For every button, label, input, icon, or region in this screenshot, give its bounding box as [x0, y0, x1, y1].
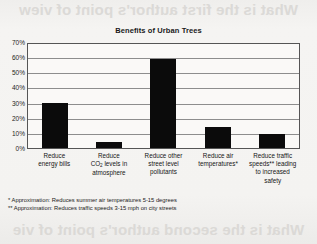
x-axis-label-line: Reduce other: [137, 152, 190, 160]
x-axis-label-line: street level: [137, 160, 190, 168]
footnote: * Approximation: Reduces summer air temp…: [8, 196, 308, 204]
plot-area: [27, 43, 300, 149]
x-axis-label: ReduceCO2 levels inatmosphere: [82, 152, 137, 185]
x-axis-labels: Reduceenergy billsReduceCO2 levels inatm…: [27, 152, 300, 185]
bar-slot: [191, 44, 245, 148]
x-axis-label-line: atmosphere: [83, 169, 136, 177]
bar[interactable]: [96, 142, 122, 148]
subscript: 2: [100, 163, 103, 168]
x-axis-label: Reduceenergy bills: [27, 152, 82, 185]
x-axis-label: Reduce trafficspeeds** leadingto increas…: [245, 152, 300, 185]
x-axis-label-line: speeds** leading: [246, 160, 299, 168]
y-axis-tick-label: 30%: [0, 100, 25, 107]
y-axis-tick-label: 10%: [0, 131, 25, 138]
x-axis-label-line: CO2 levels in: [83, 160, 136, 169]
chart-title: Benefits of Urban Trees: [0, 26, 317, 35]
bar[interactable]: [150, 59, 176, 148]
x-axis-label-line: pollutants: [137, 168, 190, 176]
y-axis-tick-label: 60%: [0, 55, 25, 62]
y-axis-tick-label: 0%: [0, 146, 25, 153]
bar-series: [28, 44, 299, 148]
bar[interactable]: [259, 134, 285, 148]
chart-plot-wrapper: [27, 43, 300, 149]
bar-slot: [28, 44, 82, 148]
x-axis-label: Reduce otherstreet levelpollutants: [136, 152, 191, 185]
bar[interactable]: [205, 127, 231, 148]
x-axis-label-line: Reduce traffic: [246, 152, 299, 160]
x-axis-label-line: energy bills: [28, 160, 81, 168]
y-axis-tick-label: 70%: [0, 40, 25, 47]
footnotes: * Approximation: Reduces summer air temp…: [8, 196, 308, 213]
bar-slot: [136, 44, 190, 148]
y-axis: 70%60%50%40%30%20%10%0%: [0, 43, 25, 149]
bar-slot: [245, 44, 299, 148]
x-axis-label-line: Reduce: [28, 152, 81, 160]
footnote: ** Approximation: Reduces traffic speeds…: [8, 204, 308, 212]
x-axis-label-line: to increased: [246, 168, 299, 176]
x-axis-label-line: Reduce: [83, 152, 136, 160]
x-axis-label-line: Reduce air: [192, 152, 245, 160]
x-axis-label-line: safety: [246, 177, 299, 185]
y-axis-tick-label: 50%: [0, 70, 25, 77]
y-axis-tick-label: 40%: [0, 85, 25, 92]
x-axis-label-line: temperatures*: [192, 160, 245, 168]
x-axis-label: Reduce airtemperatures*: [191, 152, 246, 185]
y-axis-tick-label: 20%: [0, 115, 25, 122]
bar-slot: [82, 44, 136, 148]
bar[interactable]: [42, 103, 68, 148]
